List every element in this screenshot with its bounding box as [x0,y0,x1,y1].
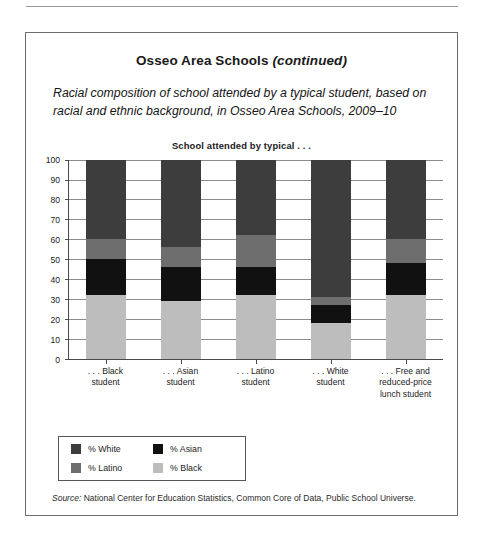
x-category-label: . . . Free andreduced-pricelunch student [368,366,443,401]
y-tick-label: 60 [50,235,60,245]
bar-segment [236,295,276,359]
chart-caption: School attended by typical . . . [26,140,457,151]
legend-item-black: % Black [153,463,235,473]
bar-segment [86,160,126,240]
bar-segment [311,305,351,323]
x-tick-mark [331,359,332,364]
figure-page: Osseo Area Schools (continued) Racial co… [0,0,479,542]
bars-layer [69,160,443,359]
bar-segment [86,239,126,259]
source-note: Source: National Center for Education St… [52,493,435,504]
bar-segment [386,160,426,240]
y-tick-label: 80 [50,195,60,205]
x-category-label: . . . Blackstudent [68,366,143,401]
legend-swatch-latino-icon [71,463,81,473]
bar-segment [236,235,276,267]
x-category-label: . . . Whitestudent [293,366,368,401]
bar-segment [161,160,201,248]
figure-title: Osseo Area Schools (continued) [26,53,457,68]
bar-slot [368,160,443,359]
stacked-bar[interactable] [86,160,126,359]
x-tick-mark [181,359,182,364]
y-tick-label: 0 [55,355,60,365]
figure-subtitle: Racial composition of school attended by… [53,85,430,121]
bar-segment [386,263,426,295]
legend-swatch-asian-icon [153,444,163,454]
source-label: Source: [52,493,81,503]
y-tick-label: 20 [50,315,60,325]
legend-item-white: % White [71,444,153,454]
bar-segment [86,295,126,359]
bar-slot [69,160,144,359]
bar-segment [236,267,276,295]
chart-plot: 0102030405060708090100 . . . Blackstuden… [26,160,457,378]
bar-segment [311,297,351,305]
legend-row: % White % Asian [71,444,235,454]
y-tick-label: 40 [50,275,60,285]
x-category-label: . . . Latinostudent [218,366,293,401]
bar-segment [386,295,426,359]
bar-segment [311,160,351,297]
stacked-bar[interactable] [236,160,276,359]
source-text: National Center for Education Statistics… [81,493,415,503]
legend-swatch-white-icon [71,444,81,454]
x-axis-category-labels: . . . Blackstudent. . . Asianstudent. . … [68,366,443,401]
legend-label-latino: % Latino [88,463,122,473]
figure-container: Osseo Area Schools (continued) Racial co… [25,32,458,516]
stacked-bar[interactable] [386,160,426,359]
stacked-bar[interactable] [311,160,351,359]
y-tick-label: 90 [50,175,60,185]
x-tick-mark [256,359,257,364]
legend-label-asian: % Asian [170,444,202,454]
legend-label-white: % White [88,444,121,454]
plot-area [68,160,443,360]
bar-segment [161,301,201,359]
legend-item-latino: % Latino [71,463,153,473]
y-tick-label: 100 [46,155,60,165]
bar-segment [161,247,201,267]
bar-slot [144,160,219,359]
bar-slot [293,160,368,359]
bar-segment [86,259,126,295]
x-category-label: . . . Asianstudent [143,366,218,401]
figure-title-main: Osseo Area Schools [136,53,269,68]
figure-title-suffix: (continued) [272,53,347,68]
y-tick-label: 70 [50,215,60,225]
bar-slot [219,160,294,359]
x-tick-mark [106,359,107,364]
legend-row: % Latino % Black [71,463,235,473]
bar-segment [236,160,276,236]
stacked-bar[interactable] [161,160,201,359]
y-tick-label: 10 [50,335,60,345]
legend-swatch-black-icon [153,463,163,473]
y-tick-label: 30 [50,295,60,305]
bar-segment [311,323,351,359]
chart-legend: % White % Asian % Latino % Black [58,436,246,481]
y-axis-tick-labels: 0102030405060708090100 [26,160,64,360]
bar-segment [386,239,426,263]
x-tick-mark [406,359,407,364]
legend-item-asian: % Asian [153,444,235,454]
page-top-rule [26,6,458,7]
bar-segment [161,267,201,301]
y-tick-label: 50 [50,255,60,265]
y-tick-mark [65,359,69,360]
legend-label-black: % Black [170,463,202,473]
